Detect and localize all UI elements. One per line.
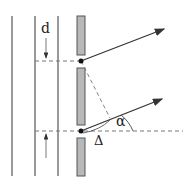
diagram-canvas: d Δ α <box>0 0 185 184</box>
grating-bar-bottom <box>77 138 85 176</box>
slit-point-bottom <box>79 129 84 134</box>
diffracted-ray-top <box>81 29 164 61</box>
grating-bar-middle <box>77 68 85 125</box>
spacing-label: d <box>41 20 50 36</box>
grating-bar-top <box>77 16 85 55</box>
path-difference-label: Δ <box>94 133 103 148</box>
angle-label: α <box>116 113 126 129</box>
slit-point-top <box>79 59 84 64</box>
